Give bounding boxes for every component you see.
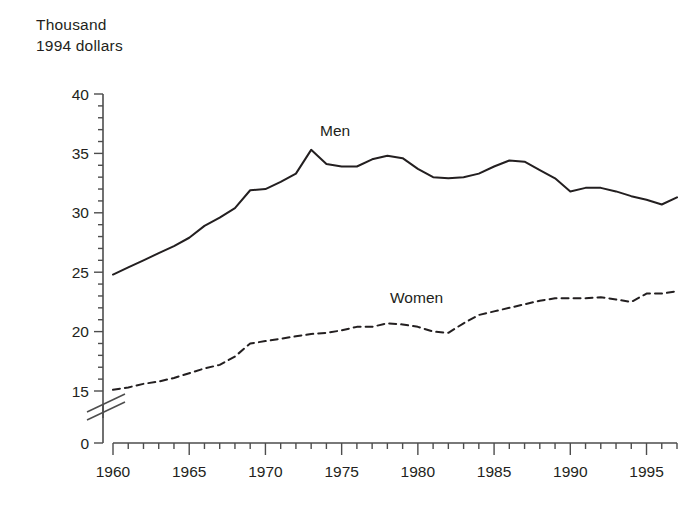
series-line-men — [113, 150, 677, 275]
x-axis: 19601965197019751980198519901995 — [96, 443, 677, 480]
x-tick-label: 1970 — [248, 463, 283, 480]
y-tick-label: 20 — [72, 323, 90, 340]
series-label-women: Women — [390, 289, 443, 306]
x-tick-label: 1960 — [96, 463, 131, 480]
x-tick-label: 1975 — [324, 463, 358, 480]
series-annotations: MenWomen — [320, 122, 443, 306]
y-tick-label: 25 — [72, 264, 89, 281]
chart-figure: Thousand1994 dollars 0152025303540 19601… — [0, 0, 699, 505]
y-axis-break-marker — [87, 394, 125, 420]
chart-plot-area: 0152025303540 19601965197019751980198519… — [0, 0, 699, 505]
y-tick-label: 40 — [72, 86, 90, 103]
axis-break-slash — [87, 402, 125, 420]
series-label-men: Men — [320, 122, 350, 139]
y-tick-label: 35 — [72, 145, 89, 162]
y-tick-label: 30 — [72, 204, 90, 221]
x-tick-label: 1980 — [401, 463, 436, 480]
y-axis: 0152025303540 — [72, 86, 103, 452]
x-tick-label: 1990 — [553, 463, 588, 480]
x-tick-label: 1965 — [172, 463, 206, 480]
axis-break-slash — [87, 394, 125, 412]
x-tick-label: 1985 — [477, 463, 511, 480]
data-series-group — [113, 150, 677, 390]
x-tick-label: 1995 — [629, 463, 663, 480]
series-line-women — [113, 291, 677, 390]
y-tick-label: 0 — [80, 435, 89, 452]
y-tick-label: 15 — [72, 383, 89, 400]
